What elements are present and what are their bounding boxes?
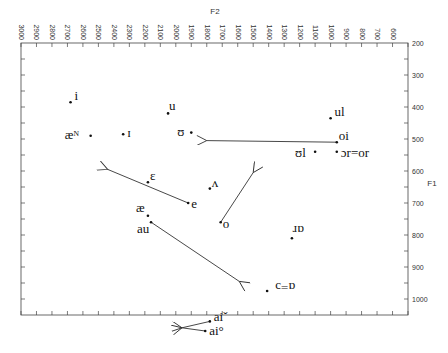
vowel-point: oi xyxy=(335,128,349,143)
data-dot xyxy=(122,133,125,136)
data-dot xyxy=(266,290,269,293)
vowel-point: ʊ xyxy=(177,124,192,139)
x-tick-label: 1000 xyxy=(328,24,335,40)
x-tick-label: 2300 xyxy=(126,24,133,40)
y-axis-title: F1 xyxy=(427,179,437,188)
x-tick-label: 2900 xyxy=(33,24,40,40)
vowel-label: o xyxy=(223,216,230,231)
vowel-label: æᴺ xyxy=(65,127,80,142)
y-tick-label: 900 xyxy=(412,264,424,271)
vowel-label: ai° xyxy=(209,323,224,338)
data-dot xyxy=(335,141,338,144)
data-dot xyxy=(89,135,92,138)
vowel-label: ɛ xyxy=(150,168,156,183)
y-axis-ticks: 2003004005006007008009001000 xyxy=(21,40,428,303)
x-tick-label: 2000 xyxy=(173,24,180,40)
x-tick-label: 700 xyxy=(374,28,381,40)
vowel-label: ɑr xyxy=(292,223,304,238)
vowel-point: o xyxy=(219,216,229,231)
vowel-point: ʊl xyxy=(295,145,316,160)
x-tick-label: 1600 xyxy=(235,24,242,40)
y-tick-label: 700 xyxy=(412,200,424,207)
diphthong-arrow xyxy=(182,321,210,327)
x-tick-label: 1100 xyxy=(312,25,319,40)
diphthong-arrow xyxy=(207,141,337,143)
data-dot xyxy=(335,151,338,154)
y-tick-label: 500 xyxy=(412,136,424,143)
y-tick-label: 1000 xyxy=(412,296,428,303)
vowel-label: au xyxy=(137,221,150,236)
vowel-point: æ xyxy=(136,200,149,217)
vowel-label: ɪ xyxy=(127,125,131,140)
vowel-points: iæᴺɪuʊuloiʊlɔr=orɛʌeæauoɑrɑ=ɔaiˇai° xyxy=(65,88,370,338)
diphthong-arrow xyxy=(221,173,254,223)
x-tick-label: 1700 xyxy=(219,24,226,40)
x-tick-label: 1500 xyxy=(250,24,257,40)
data-dot xyxy=(187,202,190,205)
vowel-label: ʊl xyxy=(295,145,306,160)
x-tick-label: 2200 xyxy=(142,24,149,40)
x-tick-label: 1400 xyxy=(266,24,273,40)
vowel-point: ɑ=ɔ xyxy=(266,280,295,295)
x-tick-label: 3000 xyxy=(18,24,25,40)
x-axis-title: F2 xyxy=(210,7,220,16)
x-tick-label: 2500 xyxy=(95,24,102,40)
data-dot xyxy=(219,221,222,224)
data-dot xyxy=(147,215,150,218)
vowel-label: ul xyxy=(335,104,346,119)
vowel-label: ɔr=or xyxy=(341,145,370,160)
vowel-point: ɔr=or xyxy=(335,145,369,160)
x-axis-ticks: 3000290028002700260025002400230022002100… xyxy=(18,24,408,315)
y-tick-label: 300 xyxy=(412,72,424,79)
vowel-label: ʌ xyxy=(212,175,219,190)
vowel-point: ai° xyxy=(204,323,224,338)
x-tick-label: 600 xyxy=(390,28,397,40)
x-tick-label: 1300 xyxy=(281,24,288,40)
data-dot xyxy=(69,101,72,104)
y-tick-label: 400 xyxy=(412,104,424,111)
data-dot xyxy=(209,187,212,190)
x-tick-label: 1200 xyxy=(297,24,304,40)
diphthong-arrow xyxy=(108,169,188,203)
x-tick-label: 2800 xyxy=(49,24,56,40)
vowel-label: oi xyxy=(339,128,350,143)
x-tick-label: 2700 xyxy=(64,24,71,40)
data-dot xyxy=(150,221,153,224)
vowel-point: u xyxy=(167,98,176,114)
vowel-label: i xyxy=(75,88,79,103)
vowel-label: u xyxy=(169,98,176,113)
x-tick-label: 1800 xyxy=(204,24,211,40)
vowel-point: i xyxy=(69,88,78,103)
y-tick-label: 600 xyxy=(412,168,424,175)
diphthong-arrow xyxy=(182,328,205,331)
vowel-label: e xyxy=(191,196,197,211)
vowel-point: ʌ xyxy=(209,175,219,190)
vowel-point: au xyxy=(137,221,152,236)
vowel-label: ʊ xyxy=(177,124,184,139)
vowel-formant-chart: F2 F1 3000290028002700260025002400230022… xyxy=(0,0,448,353)
x-tick-label: 2600 xyxy=(80,24,87,40)
vowel-point: ɑr xyxy=(291,223,304,239)
vowel-label: ɑ=ɔ xyxy=(275,280,295,295)
vowel-point: ul xyxy=(329,104,345,119)
y-tick-label: 200 xyxy=(412,40,424,47)
vowel-label: æ xyxy=(136,200,145,215)
vowel-point: ɛ xyxy=(147,168,156,183)
data-dot xyxy=(204,330,207,333)
x-tick-label: 2100 xyxy=(157,24,164,40)
x-tick-label: 800 xyxy=(359,28,366,40)
x-tick-label: 1900 xyxy=(188,24,195,40)
vowel-point: ɪ xyxy=(122,125,131,140)
data-dot xyxy=(329,117,332,120)
data-dot xyxy=(314,151,317,154)
data-dot xyxy=(147,181,150,184)
data-dot xyxy=(190,131,193,134)
vowel-point: æᴺ xyxy=(65,127,92,142)
vowel-point: e xyxy=(187,196,197,211)
x-tick-label: 900 xyxy=(343,28,350,40)
y-tick-label: 800 xyxy=(412,232,424,239)
x-tick-label: 2400 xyxy=(111,24,118,40)
